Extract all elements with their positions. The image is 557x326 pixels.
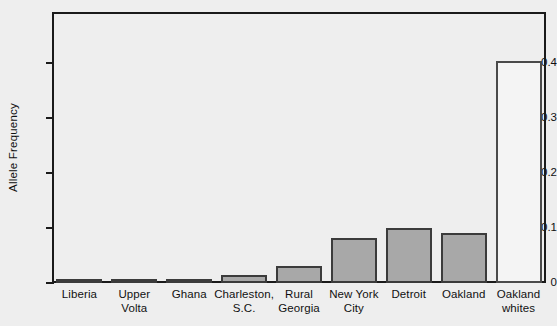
x-axis-labels: LiberiaUpperVoltaGhanaCharleston,S.C.Rur…	[52, 287, 546, 326]
x-axis-label-line1: Liberia	[62, 288, 97, 300]
x-axis-label-line1: Detroit	[391, 288, 426, 300]
x-axis-label-line2: Volta	[101, 301, 168, 315]
bar-rural-georgia	[276, 266, 322, 283]
x-axis-label-line2: City	[320, 301, 387, 315]
x-axis-label-line1: Rural	[285, 288, 313, 300]
bar-oakland-whites	[496, 61, 542, 283]
x-axis-label-line2: whites	[485, 301, 552, 315]
bar-ghana	[166, 279, 212, 283]
x-axis-label-line1: Upper	[118, 288, 150, 300]
x-axis-label-line1: Ghana	[172, 288, 207, 300]
bar-oakland	[441, 233, 487, 283]
x-axis-label: Oaklandwhites	[485, 287, 552, 315]
bar-upper-volta	[111, 279, 157, 283]
bar-charleston-s-c	[221, 275, 267, 283]
bar-chart: Allele Frequency 00.10.20.30.4 LiberiaUp…	[0, 0, 557, 326]
bar-detroit	[386, 228, 432, 283]
bar-new-york-city	[331, 238, 377, 283]
x-axis-label-line1: Oakland	[442, 288, 486, 300]
bar-liberia	[56, 279, 102, 283]
y-axis-title: Allele Frequency	[4, 12, 22, 283]
bars-layer	[52, 12, 546, 283]
x-axis-label-line1: Oakland	[497, 288, 541, 300]
x-axis-label-line1: New York	[329, 288, 378, 300]
